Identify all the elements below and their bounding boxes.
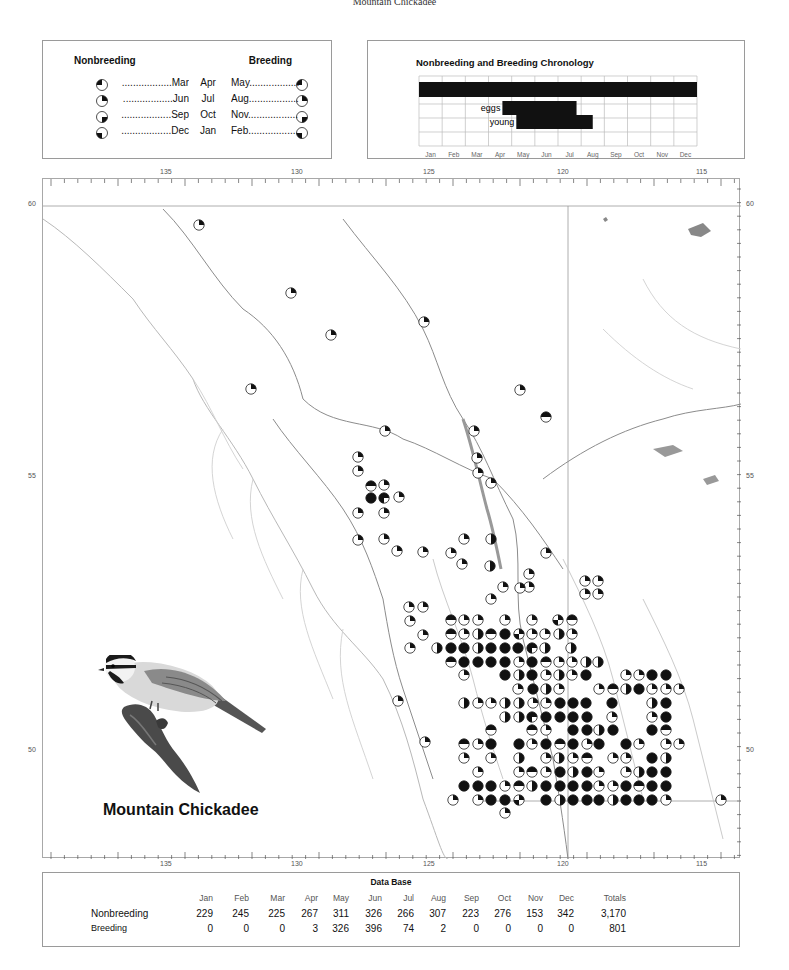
- occurrence-symbol-icon: [486, 478, 496, 488]
- occurrence-symbol-icon: [457, 559, 467, 569]
- chronology-month-label: Jul: [565, 151, 574, 158]
- occurrence-symbol-icon: [473, 615, 483, 625]
- occurrence-symbol-icon: [568, 725, 578, 735]
- longitude-label: 130: [291, 860, 303, 867]
- occurrence-symbol-icon: [540, 629, 550, 639]
- occurrence-symbol-icon: [594, 781, 604, 791]
- occurrence-symbol-icon: [473, 739, 483, 749]
- occurrence-symbol-icon: [555, 698, 565, 708]
- occurrence-symbol-icon: [394, 492, 404, 502]
- occurrence-symbol-icon: [541, 739, 551, 749]
- occurrence-symbol-icon: [647, 781, 657, 791]
- occurrence-symbol-icon: [469, 426, 479, 436]
- occurrence-symbol-icon: [473, 468, 483, 478]
- occurrence-symbol-icon: [528, 684, 538, 694]
- occurrence-symbol-icon: [594, 767, 604, 777]
- data-base-title: Data Base: [43, 877, 739, 887]
- table-row: Breeding00033263967420000801: [43, 923, 739, 936]
- chronology-month-label: May: [517, 151, 530, 159]
- occurrence-symbol-icon: [514, 670, 524, 680]
- occurrence-symbol-icon: [353, 452, 363, 462]
- occurrence-symbol-icon: [353, 535, 363, 545]
- occurrence-symbol-icon: [647, 712, 657, 722]
- occurrence-symbol-icon: [473, 698, 483, 708]
- occurrence-symbol-icon: [567, 629, 577, 639]
- occurrence-symbol-icon: [500, 657, 510, 667]
- occurrence-symbol-icon: [418, 547, 428, 557]
- occurrence-symbol-icon: [674, 739, 684, 749]
- occurrence-symbol-icon: [486, 753, 496, 763]
- occurrence-symbol-icon: [581, 670, 591, 680]
- nonbreeding-quadrant-icon: [95, 110, 109, 124]
- occurrence-symbol-icon: [486, 781, 496, 791]
- legend-nonbreeding-month: ..................Mar: [112, 77, 189, 88]
- nonbreeding-quadrant-icon: [95, 78, 109, 92]
- legend-row: ..................SepOctNov.............…: [43, 109, 331, 123]
- occurrence-symbol-icon: [567, 615, 577, 625]
- occurrence-symbol-icon: [513, 684, 523, 694]
- occurrence-symbol-icon: [661, 753, 671, 763]
- occurrence-symbol-icon: [527, 657, 537, 667]
- occurrence-symbol-icon: [486, 795, 496, 805]
- table-cell: 229: [173, 908, 213, 919]
- occurrence-symbol-icon: [420, 737, 430, 747]
- occurrence-symbol-icon: [446, 615, 456, 625]
- occurrence-symbol-icon: [405, 643, 415, 653]
- occurrence-symbol-icon: [473, 629, 483, 639]
- legend-row: ..................DecJanFeb.............…: [43, 125, 331, 139]
- table-cell: 245: [209, 908, 249, 919]
- occurrence-symbol-icon: [528, 698, 538, 708]
- page-header-title: Mountain Chickadee: [353, 0, 437, 7]
- occurrence-symbol-icon: [541, 412, 551, 422]
- species-name-label: Mountain Chickadee: [103, 801, 259, 819]
- occurrence-symbol-icon: [634, 781, 644, 791]
- occurrence-symbol-icon: [514, 739, 524, 749]
- occurrence-symbol-icon: [555, 767, 565, 777]
- occurrence-symbol-icon: [500, 670, 510, 680]
- occurrence-symbol-icon: [581, 657, 591, 667]
- occurrence-symbol-icon: [514, 657, 524, 667]
- occurrence-symbol-icon: [527, 781, 537, 791]
- breeding-quadrant-icon: [295, 110, 309, 124]
- occurrence-symbol-icon: [500, 615, 510, 625]
- occurrence-symbol-icon: [459, 670, 469, 680]
- occurrence-symbol-icon: [634, 739, 644, 749]
- occurrence-symbol-icon: [674, 684, 684, 694]
- occurrence-symbol-icon: [568, 767, 578, 777]
- occurrence-symbol-icon: [568, 781, 578, 791]
- occurrence-symbol-icon: [404, 602, 414, 612]
- occurrence-symbol-icon: [621, 670, 631, 680]
- occurrence-symbol-icon: [608, 753, 618, 763]
- occurrence-symbol-icon: [554, 684, 564, 694]
- occurrence-symbol-icon: [661, 795, 671, 805]
- occurrence-symbol-icon: [380, 426, 390, 436]
- occurrence-symbol-icon: [500, 629, 510, 639]
- chronology-month-label: Jun: [541, 151, 552, 158]
- latitude-label: 50: [746, 746, 754, 753]
- occurrence-symbol-icon: [486, 739, 496, 749]
- chronology-month-label: Mar: [471, 151, 483, 158]
- occurrence-symbol-icon: [446, 643, 456, 653]
- occurrence-symbol-icon: [541, 795, 551, 805]
- occurrence-symbol-icon: [524, 569, 534, 579]
- occurrence-symbol-icon: [647, 753, 657, 763]
- occurrence-symbol-icon: [568, 698, 578, 708]
- occurrence-symbol-icon: [514, 698, 524, 708]
- occurrence-symbol-icon: [608, 781, 618, 791]
- occurrence-symbol-icon: [514, 767, 524, 777]
- occurrence-symbol-icon: [661, 739, 671, 749]
- longitude-label: 120: [557, 168, 569, 175]
- legend-nonbreeding-month: ..................Sep: [112, 109, 189, 120]
- occurrence-symbol-icon: [621, 753, 631, 763]
- occurrence-symbol-icon: [527, 739, 537, 749]
- occurrence-symbol-icon: [514, 781, 524, 791]
- occurrence-symbol-icon: [527, 767, 537, 777]
- occurrence-symbol-icon: [486, 657, 496, 667]
- occurrence-symbol-icon: [513, 643, 523, 653]
- occurrence-symbol-icon: [582, 712, 592, 722]
- occurrence-symbol-icon: [568, 739, 578, 749]
- row-label: Nonbreeding: [91, 908, 148, 919]
- chronology-month-label: Sep: [610, 151, 622, 159]
- occurrence-symbol-icon: [486, 594, 496, 604]
- occurrence-symbol-icon: [634, 795, 644, 805]
